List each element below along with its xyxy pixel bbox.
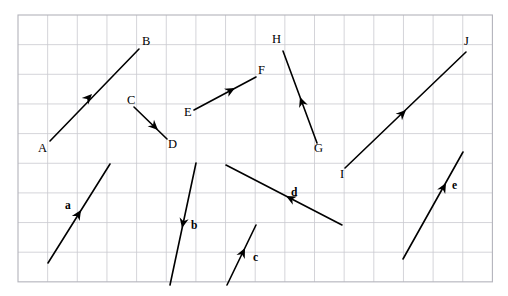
point-label-h: H [272, 32, 281, 46]
point-label-e: E [184, 105, 192, 119]
vector-cd-shaft [134, 107, 167, 139]
vector-cd [134, 107, 167, 139]
vector-a-arrowhead [72, 208, 85, 221]
vector-d [226, 165, 342, 225]
vector-label-c: c [253, 251, 258, 263]
vector-c-shaft [227, 225, 256, 285]
grid [18, 15, 492, 282]
point-label-j: J [464, 34, 469, 48]
point-label-g: G [314, 141, 323, 155]
diagram-svg: ABCDEFGHIJabcde [0, 0, 508, 296]
vector-ef-shaft [194, 77, 256, 110]
vector-ab-shaft [50, 49, 139, 141]
vector-label-a: a [65, 199, 71, 211]
vector-ij [345, 52, 466, 168]
vector-ab-arrowhead [82, 91, 96, 105]
point-label-f: F [258, 63, 265, 77]
vector-ab [50, 49, 139, 141]
point-label-d: D [168, 137, 177, 151]
vector-d-shaft [226, 165, 342, 225]
vector-label-d: d [291, 186, 298, 198]
vector-ij-shaft [345, 52, 466, 168]
vector-a [48, 164, 110, 263]
vector-label-e: e [452, 179, 457, 191]
point-label-a: A [38, 141, 47, 155]
vector-ef [194, 77, 256, 110]
point-label-c: C [127, 93, 135, 107]
vector-gh [283, 51, 317, 143]
vector-gh-arrowhead [296, 95, 308, 108]
vector-c [227, 225, 256, 285]
vector-label-b: b [191, 219, 197, 231]
vector-e-arrowhead [437, 181, 450, 194]
vector-ef-arrowhead [224, 84, 237, 97]
point-label-b: B [142, 34, 150, 48]
point-label-i: I [340, 167, 344, 181]
vector-diagram-canvas: ABCDEFGHIJabcde [0, 0, 508, 296]
